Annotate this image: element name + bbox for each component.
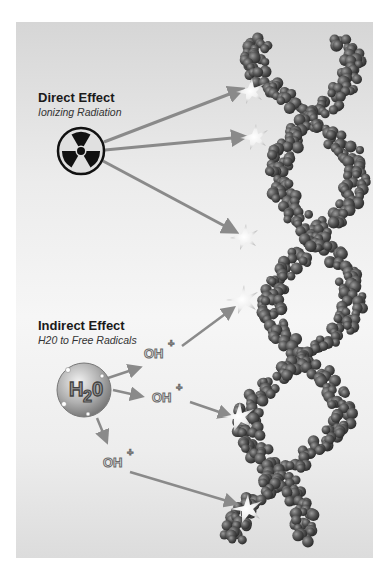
impact-star-2 bbox=[240, 124, 268, 150]
indirect-effect-subtitle: H20 to Free Radicals bbox=[38, 334, 137, 346]
h2o-molecule-icon: H 2 0 bbox=[57, 363, 111, 417]
svg-text:0: 0 bbox=[92, 378, 103, 400]
direct-effect-label: Direct Effect Ionizing Radiation bbox=[38, 90, 121, 118]
radical-arrow-1 bbox=[182, 309, 232, 346]
oh-radical-1: OH bbox=[144, 346, 164, 361]
radiation-arrows bbox=[103, 90, 243, 231]
direct-effect-subtitle: Ionizing Radiation bbox=[38, 106, 121, 118]
direct-effect-title: Direct Effect bbox=[38, 90, 121, 105]
indirect-effect-label: Indirect Effect H20 to Free Radicals bbox=[38, 318, 137, 346]
radical-arrow-3 bbox=[130, 472, 234, 503]
oh-radical-2: OH bbox=[152, 390, 172, 405]
radiation-arrow-3 bbox=[103, 161, 234, 231]
oh-charge-2: + bbox=[176, 381, 182, 393]
h2o-arrow-3 bbox=[97, 418, 106, 440]
diagram-artwork: H 2 0 OH + OH + OH + bbox=[0, 0, 391, 574]
svg-text:2: 2 bbox=[83, 388, 92, 405]
oh-charge-3: + bbox=[127, 446, 133, 458]
h2o-arrow-1 bbox=[108, 368, 138, 378]
radiation-icon bbox=[58, 128, 104, 174]
svg-text:H: H bbox=[69, 378, 83, 400]
impact-star-3 bbox=[230, 224, 258, 250]
oh-charge-1: + bbox=[168, 337, 174, 349]
h2o-arrow-2 bbox=[113, 390, 140, 396]
indirect-effect-title: Indirect Effect bbox=[38, 318, 137, 333]
radiation-arrow-2 bbox=[105, 137, 243, 150]
oh-radical-3: OH bbox=[103, 455, 123, 470]
radiation-arrow-1 bbox=[104, 90, 240, 142]
radical-arrow-2 bbox=[190, 402, 228, 415]
oh-radical-labels: OH + OH + OH + bbox=[103, 337, 182, 470]
